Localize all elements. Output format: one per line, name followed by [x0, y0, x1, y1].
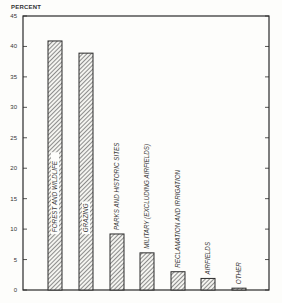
y-tick-label: 0 [14, 287, 18, 293]
bar-label: AIRFIELDS [204, 241, 211, 275]
bar-other: OTHER [232, 262, 246, 290]
bar-label: RECLAMATION AND IRRIGATION [174, 169, 181, 267]
bar-label: MILITARY (EXCLUDING AIRFIELDS) [143, 144, 151, 249]
y-tick-label: 45 [10, 13, 17, 19]
y-tick-label: 25 [10, 135, 17, 141]
y-tick-label: 20 [10, 165, 17, 171]
y-tick-label: 10 [10, 226, 17, 232]
bar-parks-and-historic-sites: PARKS AND HISTORIC SITES [110, 142, 124, 290]
y-tick-label: 35 [10, 74, 17, 80]
y-tick-label: 15 [10, 196, 17, 202]
y-tick-label: 30 [10, 104, 17, 110]
bar-chart: 051015202530354045FOREST AND WILDLIFEGRA… [0, 0, 282, 303]
y-tick-label: 40 [10, 43, 17, 49]
bar-reclamation-and-irrigation: RECLAMATION AND IRRIGATION [171, 169, 185, 290]
bar-grazing: GRAZING [79, 53, 93, 290]
bar-label: PARKS AND HISTORIC SITES [113, 142, 120, 230]
bar-airfields: AIRFIELDS [201, 241, 215, 290]
y-tick-label: 5 [14, 257, 18, 263]
bar-forest-and-wildlife: FOREST AND WILDLIFE [48, 41, 62, 290]
bar-label: OTHER [235, 262, 242, 284]
bar-military-excluding-airfields: MILITARY (EXCLUDING AIRFIELDS) [140, 144, 154, 290]
bar-label: FOREST AND WILDLIFE [51, 160, 58, 232]
bar-label: GRAZING [82, 203, 89, 232]
